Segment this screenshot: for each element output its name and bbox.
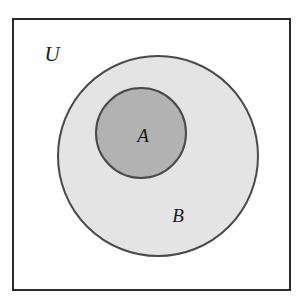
set-b-label: B <box>172 205 184 226</box>
set-a-label: A <box>135 125 149 146</box>
venn-diagram-canvas: U B A <box>0 0 305 306</box>
universe-label: U <box>44 42 61 66</box>
venn-diagram-svg: U B A <box>0 0 305 306</box>
